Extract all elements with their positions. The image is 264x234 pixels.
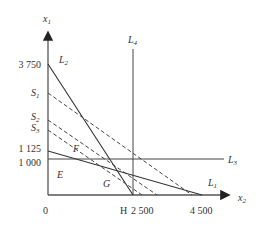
region-G: G [103,178,110,189]
y-tick-1125: 1 125 [19,143,42,154]
y-axis-label: x1 [42,13,51,26]
y-tick-3750: 3 750 [19,59,42,70]
origin-label: 0 [43,205,48,216]
label-L1: L1 [207,177,217,190]
x-tick-4500: 4 500 [190,205,213,216]
label-S1: S1 [31,87,40,100]
label-L3: L3 [227,154,238,167]
region-F: F [72,143,80,154]
lp-diagram: x1 x2 0 3 750 1 125 1 000 S1 S2 S3 H 2 5… [0,0,264,234]
label-L2: L2 [58,54,69,67]
iso-line-S3 [48,130,142,195]
label-L4: L4 [127,34,138,47]
x-axis-label: x2 [237,192,246,205]
y-tick-1000: 1 000 [19,157,42,168]
x-tick-2500: 2 500 [131,205,154,216]
region-E: E [56,169,63,180]
x-tick-H: H [120,205,127,216]
